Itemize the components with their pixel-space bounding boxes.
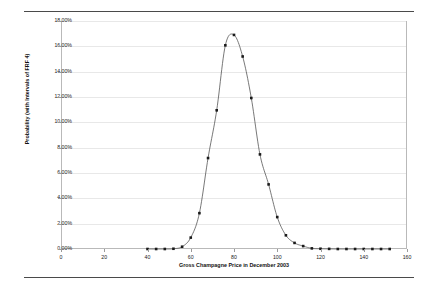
data-point (224, 44, 227, 47)
data-point (380, 248, 383, 251)
data-point (337, 248, 340, 251)
x-axis-tick-label: 160 (392, 254, 422, 260)
data-point (233, 34, 236, 37)
x-axis-tick (61, 249, 62, 252)
x-axis-tick (321, 249, 322, 252)
chart-container: Probability (with Intervals of FRF 4) Gr… (10, 18, 428, 270)
probability-curve (148, 34, 390, 249)
y-axis-tick-label: 14.00% (32, 69, 72, 74)
data-point (371, 248, 374, 251)
data-point (345, 248, 348, 251)
data-point (215, 109, 218, 112)
x-axis-title: Gross Champagne Price in December 2003 (61, 262, 407, 268)
data-point (276, 216, 279, 219)
data-point (241, 55, 244, 58)
data-point (189, 236, 192, 239)
data-point (164, 248, 167, 251)
x-axis-tick (364, 249, 365, 252)
y-axis-tick (58, 224, 61, 225)
x-axis-tick-label: 80 (219, 254, 249, 260)
x-axis-tick-label: 40 (133, 254, 163, 260)
y-axis-tick-label: 8.00% (32, 145, 72, 150)
x-axis-tick (407, 249, 408, 252)
y-axis-tick (58, 173, 61, 174)
data-point (302, 245, 305, 248)
data-point (207, 157, 210, 160)
x-axis-tick-label: 120 (306, 254, 336, 260)
data-point (267, 183, 270, 186)
data-point (198, 212, 201, 215)
x-axis-tick-label: 20 (89, 254, 119, 260)
faint-page-header (5, 1, 65, 7)
y-axis-tick (58, 122, 61, 123)
y-axis-tick-label: 12.00% (32, 94, 72, 99)
data-series (61, 21, 407, 249)
y-axis-tick-label: 6.00% (32, 170, 72, 175)
page-top-rule (24, 11, 414, 12)
data-point (181, 245, 184, 248)
data-point (172, 247, 175, 250)
x-axis-tick (191, 249, 192, 252)
y-axis-tick-label: 18.00% (32, 18, 72, 23)
data-point (285, 234, 288, 237)
x-axis-tick-label: 0 (46, 254, 76, 260)
data-point (155, 248, 158, 251)
y-axis-tick (58, 148, 61, 149)
y-axis-tick-label: 16.00% (32, 43, 72, 48)
x-axis-tick-label: 100 (262, 254, 292, 260)
data-point (354, 248, 357, 251)
y-axis-tick-label: 0.00% (32, 246, 72, 251)
data-point (328, 248, 331, 251)
data-point (388, 248, 391, 251)
y-axis-tick (58, 72, 61, 73)
page-bottom-rule (24, 277, 414, 278)
x-axis-tick (104, 249, 105, 252)
y-axis-tick (58, 97, 61, 98)
data-point (250, 97, 253, 100)
x-axis-tick (277, 249, 278, 252)
x-axis-tick-label: 140 (349, 254, 379, 260)
y-axis-tick (58, 21, 61, 22)
data-point (311, 247, 314, 250)
data-point (259, 153, 262, 156)
data-point-markers (146, 34, 391, 251)
y-axis-tick-label: 10.00% (32, 119, 72, 124)
y-axis-tick-label: 2.00% (32, 221, 72, 226)
y-axis-tick (58, 198, 61, 199)
y-axis-tick-label: 4.00% (32, 195, 72, 200)
x-axis-tick-label: 60 (176, 254, 206, 260)
y-axis-title: Probability (with Intervals of FRF 4) (24, 24, 30, 174)
data-point (293, 242, 296, 245)
x-axis-tick (148, 249, 149, 252)
x-axis-tick (234, 249, 235, 252)
y-axis-tick (58, 46, 61, 47)
